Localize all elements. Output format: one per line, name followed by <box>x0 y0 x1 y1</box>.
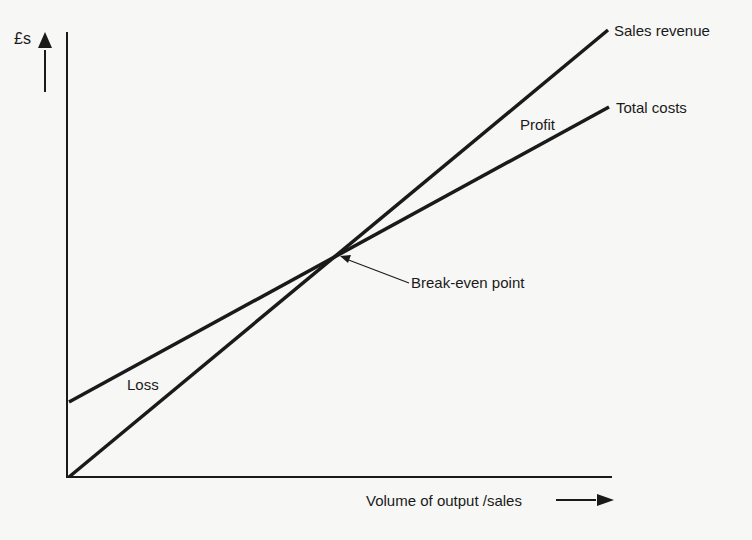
break-even-arrowhead-icon <box>340 255 351 263</box>
profit-label: Profit <box>520 117 555 132</box>
break-even-label: Break-even point <box>411 275 524 290</box>
break-even-chart <box>0 0 752 540</box>
total-costs-label: Total costs <box>616 100 687 115</box>
x-arrowhead-icon <box>597 494 614 506</box>
x-axis-label: Volume of output /sales <box>366 493 522 508</box>
y-axis-label: £s <box>14 31 31 47</box>
loss-label: Loss <box>127 377 159 392</box>
y-arrowhead-icon <box>38 32 52 48</box>
total-costs-line <box>69 107 609 402</box>
break-even-pointer <box>346 259 409 283</box>
sales-revenue-label: Sales revenue <box>614 23 710 38</box>
